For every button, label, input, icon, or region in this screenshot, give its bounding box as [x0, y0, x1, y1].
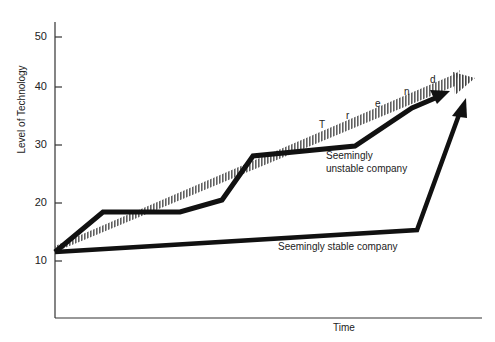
- y-tick-30: 30: [27, 138, 47, 150]
- trend-letter-r: r: [346, 110, 349, 121]
- trend-letter-e: e: [375, 98, 381, 109]
- y-tick-50: 50: [27, 30, 47, 42]
- unstable-label-line1: Seemingly: [326, 150, 373, 161]
- y-ticks: [55, 37, 62, 261]
- trend-band: [55, 70, 475, 252]
- x-axis-label: Time: [333, 322, 355, 333]
- trend-letter-n: n: [404, 86, 410, 97]
- trend-letter-d: d: [430, 74, 436, 85]
- trend-arrowhead: [453, 72, 475, 95]
- stable-label: Seemingly stable company: [278, 241, 398, 252]
- chart-canvas: [0, 0, 495, 342]
- unstable-label-line2: unstable company: [326, 163, 407, 174]
- y-tick-10: 10: [27, 254, 47, 266]
- y-tick-40: 40: [27, 80, 47, 92]
- stable-arrowhead: [452, 98, 467, 118]
- stable-company-line: [55, 98, 467, 252]
- y-axis-label: Level of Technology: [16, 55, 27, 165]
- y-tick-20: 20: [27, 196, 47, 208]
- trend-letter-t: T: [319, 119, 325, 130]
